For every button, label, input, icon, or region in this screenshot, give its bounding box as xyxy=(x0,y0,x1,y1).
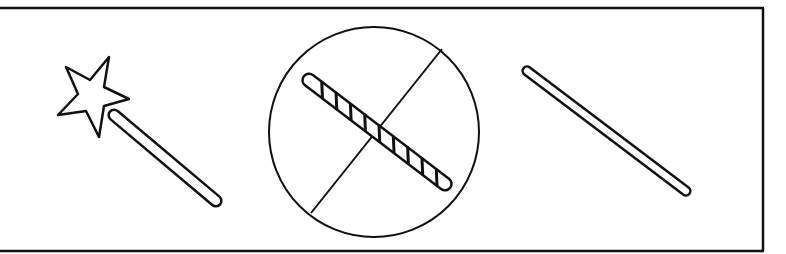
figure-canvas xyxy=(0,0,786,254)
magic-wand-icon xyxy=(58,57,224,209)
wand-stick xyxy=(106,107,223,208)
plain-stick-icon xyxy=(521,65,692,198)
prohibited-striped-stick-icon xyxy=(269,27,479,237)
